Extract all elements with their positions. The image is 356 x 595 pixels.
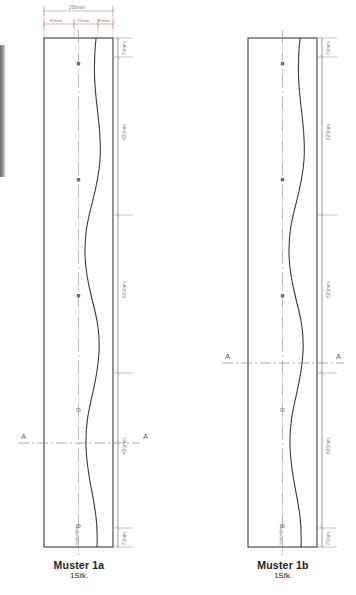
- panel-b-caption: Muster 1b 1Stk.: [252, 560, 314, 581]
- panel-b-caption-qty: 1Stk.: [252, 572, 314, 581]
- panel-a-caption-qty: 1Stk.: [48, 572, 110, 581]
- panel-b-inner-note: Schnittlinie: [278, 525, 283, 545]
- panel-a-caption: Muster 1a 1Stk.: [48, 560, 110, 581]
- panel-a-seg3-label: 45mm: [98, 18, 111, 23]
- panel-b-dim-70-bottom: 70mm: [326, 532, 331, 545]
- panel-a-seg2-label: 70mm: [77, 18, 90, 23]
- panel-b-dim-620-3: 620mm: [326, 438, 331, 454]
- panel-b-caption-title: Muster 1b: [252, 560, 314, 572]
- panel-b-section-label-left: A: [225, 352, 230, 361]
- panel-b-dim-70-top: 70mm: [326, 42, 331, 55]
- panel-a-dim-620-3: 620mm: [122, 438, 127, 454]
- panel-a-dim-70-bottom: 70mm: [122, 532, 127, 545]
- technical-drawing-svg: [0, 0, 356, 595]
- panel-a-dim-620-2: 620mm: [122, 282, 127, 298]
- panel-b-dim-620-1: 620mm: [326, 124, 331, 140]
- drawing-canvas: 200mm 85mm 70mm 45mm 70mm 620mm 620mm 62…: [0, 0, 356, 595]
- panel-a-section-label-left: A: [21, 432, 26, 441]
- panel-a-caption-title: Muster 1a: [48, 560, 110, 572]
- panel-b-dim-620-2: 620mm: [326, 282, 331, 298]
- panel-b-section-label-right: A: [336, 352, 341, 361]
- panel-a-dim-70-top: 70mm: [122, 42, 127, 55]
- panel-a-section-label-right: A: [143, 432, 148, 441]
- panel-a-dim-620-1: 620mm: [122, 124, 127, 140]
- panel-a-total-dim-label: 200mm: [69, 5, 85, 10]
- panel-a-seg1-label: 85mm: [50, 18, 63, 23]
- panel-a-inner-note: Schnittlinie: [74, 525, 79, 545]
